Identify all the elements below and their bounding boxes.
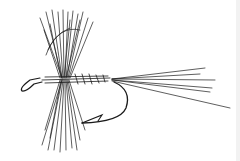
wing-fibers xyxy=(40,10,93,78)
hackle-fibers xyxy=(42,80,85,152)
fly-body xyxy=(42,74,110,84)
fly-illustration xyxy=(0,0,240,161)
dry-fly-drawing xyxy=(0,0,240,161)
right-edge xyxy=(236,0,240,161)
hook-eye xyxy=(21,78,42,91)
hook-bend xyxy=(82,82,128,123)
tail-fibers xyxy=(112,68,230,108)
